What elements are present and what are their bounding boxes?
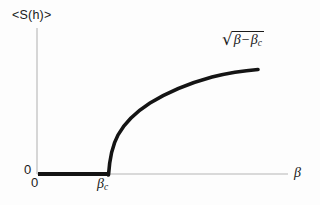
beta-subscript: c [104,182,108,192]
radicand-beta-c: β [251,32,258,47]
curve-sqrt-branch [109,70,259,176]
radicand-expression: β−βc [232,31,264,48]
x-axis-label: β [294,166,301,180]
y-axis-label: <S(h)> [12,9,51,22]
sqrt-scaling-annotation: √β−βc [222,31,264,48]
radicand-beta: β [234,32,241,47]
beta-symbol: β [97,176,104,191]
figure-canvas: <S(h)> β 0 0 βc √β−βc [0,0,320,205]
plot-area [0,0,320,205]
minus-operator: − [241,32,251,47]
x-axis-zero-tick-label: 0 [31,176,38,189]
x-axis-critical-beta-tick-label: βc [97,177,108,193]
radicand-beta-c-subscript: c [258,38,262,48]
